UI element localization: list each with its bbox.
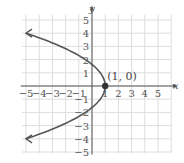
y-tick-label: −3 — [74, 121, 89, 132]
x-tick-label: 5 — [155, 88, 161, 99]
x-tick-label: 4 — [142, 88, 148, 99]
y-axis-label: y — [88, 3, 95, 14]
parabola-chart: −5−4−3−2−11234554321−1−2−3−4−5 (1, 0) x … — [0, 0, 184, 163]
y-tick-label: −4 — [74, 134, 89, 145]
y-tick-label: 5 — [83, 15, 89, 26]
x-tick-label: 3 — [128, 88, 134, 99]
x-tick-label: 2 — [115, 88, 121, 99]
y-tick-label: −2 — [74, 107, 89, 118]
vertex-label: (1, 0) — [107, 70, 137, 83]
y-tick-label: −1 — [74, 94, 89, 105]
y-tick-label: −5 — [74, 147, 89, 158]
vertex-point — [102, 83, 108, 89]
y-tick-label: 3 — [83, 41, 89, 52]
x-axis-label: x — [173, 80, 179, 91]
y-tick-label: 4 — [83, 28, 89, 39]
y-tick-label: 1 — [83, 68, 89, 79]
